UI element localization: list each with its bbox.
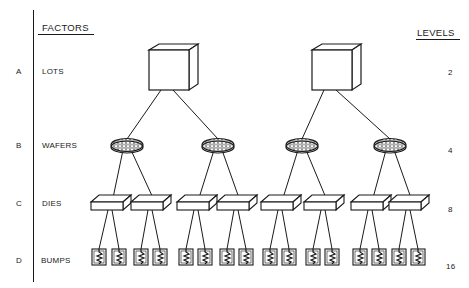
bump-icon: [239, 249, 253, 265]
bump-icon: [179, 249, 193, 265]
die-icon: [389, 195, 429, 210]
bump-icon: [153, 249, 167, 265]
bump-icon: [112, 249, 126, 265]
bump-icon: [306, 249, 320, 265]
bump-icon: [353, 249, 367, 265]
bump-icon: [92, 249, 106, 265]
wafer-icon: [202, 139, 234, 154]
die-icon: [217, 195, 257, 210]
die-icon: [261, 195, 301, 210]
bump-icon: [220, 249, 234, 265]
bump-icon: [198, 249, 212, 265]
tree-edges: [99, 90, 418, 249]
bump-icon: [411, 249, 425, 265]
die-icon: [351, 195, 391, 210]
wafer-icon: [374, 139, 406, 154]
die-icon: [304, 195, 344, 210]
die-icon: [131, 195, 171, 210]
wafer-icon: [286, 139, 318, 154]
die-icon: [91, 195, 131, 210]
die-icon: [177, 195, 217, 210]
tree-nodes: [91, 44, 429, 265]
bump-icon: [263, 249, 277, 265]
bump-icon: [325, 249, 339, 265]
bump-icon: [392, 249, 406, 265]
wafer-icon: [111, 139, 143, 154]
cube-icon: [149, 44, 198, 90]
bump-icon: [282, 249, 296, 265]
bump-icon: [134, 249, 148, 265]
cube-icon: [312, 44, 361, 90]
hierarchy-tree: [0, 0, 469, 288]
bump-icon: [372, 249, 386, 265]
